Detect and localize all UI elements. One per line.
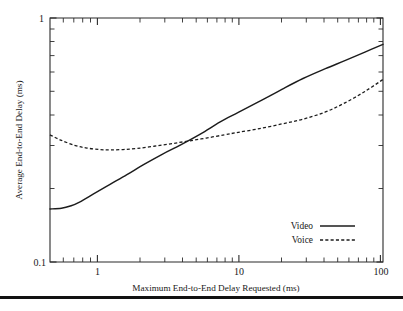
series-line-video [50, 44, 383, 209]
y-axis-ticks-right [377, 18, 384, 262]
x-tick-label-100: 100 [374, 266, 389, 277]
line-chart-plot: 1 0.1 1 10 100 Maximum End-to-End Delay … [0, 0, 403, 311]
x-tick-label-10: 10 [234, 266, 244, 277]
y-tick-label-0-1: 0.1 [34, 257, 47, 268]
x-axis-ticks [63, 255, 380, 262]
chart-legend: Video Voice [291, 221, 355, 245]
legend-label-video: Video [291, 221, 314, 231]
chart-figure: 1 0.1 1 10 100 Maximum End-to-End Delay … [0, 0, 403, 311]
series-line-voice [50, 79, 383, 149]
y-axis-title: Average End-to-End Delay (ms) [14, 81, 24, 200]
x-axis-title: Maximum End-to-End Delay Requested (ms) [132, 283, 299, 293]
legend-label-voice: Voice [292, 235, 313, 245]
page-divider-rule [0, 296, 403, 299]
x-axis-ticks-top [63, 18, 380, 25]
y-tick-label-1: 1 [39, 13, 44, 24]
y-axis-ticks [50, 18, 57, 262]
x-tick-label-1: 1 [95, 266, 100, 277]
